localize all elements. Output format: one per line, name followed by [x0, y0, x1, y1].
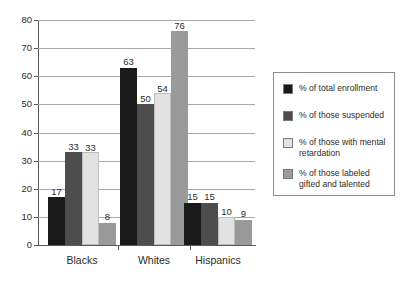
legend-item[interactable]: % of total enrollment — [283, 83, 377, 94]
x-axis-category-label: Blacks — [67, 255, 98, 266]
bar-value-label: 15 — [187, 192, 198, 202]
legend-item[interactable]: % of those with mental retardation — [283, 137, 391, 159]
bars-layer: 1733338635054761515109 — [38, 20, 255, 245]
bar: 10 — [218, 217, 235, 245]
y-axis-tick-label: 60 — [21, 72, 32, 82]
bar-value-label: 9 — [241, 209, 246, 219]
legend-swatch-icon — [283, 84, 293, 94]
bar-value-label: 33 — [68, 142, 79, 152]
bar: 50 — [137, 104, 154, 245]
y-axis-tick-label: 10 — [21, 212, 32, 222]
legend-item-label: % of total enrollment — [299, 83, 377, 94]
bar-value-label: 50 — [140, 94, 151, 104]
legend-item[interactable]: % of those suspended — [283, 110, 384, 121]
bar: 33 — [82, 152, 99, 245]
legend-item-label: % of those with mental retardation — [299, 137, 391, 159]
x-axis-line — [38, 245, 256, 246]
bar-group: 1733338 — [48, 20, 116, 245]
y-tick-mark — [34, 245, 38, 246]
legend-item[interactable]: % of those labeled gifted and talented — [283, 168, 391, 190]
legend: % of total enrollment% of those suspende… — [273, 72, 395, 196]
legend-item-label: % of those suspended — [299, 110, 384, 121]
x-axis-separator — [118, 245, 119, 250]
bar-value-label: 17 — [51, 187, 62, 197]
bar-chart: 01020304050607080 1733338635054761515109… — [0, 0, 416, 282]
bar-group: 1515109 — [184, 20, 252, 245]
bar-value-label: 15 — [204, 192, 215, 202]
bar-value-label: 10 — [221, 207, 232, 217]
bar: 33 — [65, 152, 82, 245]
bar: 9 — [235, 220, 252, 245]
y-axis-tick-label: 50 — [21, 100, 32, 110]
y-axis-tick-label: 70 — [21, 43, 32, 53]
bar: 17 — [48, 197, 65, 245]
legend-swatch-icon — [283, 169, 293, 179]
legend-item-label: % of those labeled gifted and talented — [299, 168, 391, 190]
plot-area: 01020304050607080 1733338635054761515109 — [38, 20, 255, 245]
y-axis-tick-label: 20 — [21, 184, 32, 194]
y-axis-tick-label: 0 — [27, 240, 32, 250]
x-axis-separator — [190, 245, 191, 250]
x-axis-category-label: Hispanics — [195, 255, 241, 266]
bar-group: 63505476 — [120, 20, 188, 245]
bar: 63 — [120, 68, 137, 245]
bar-value-label: 8 — [105, 212, 110, 222]
y-axis-tick-label: 30 — [21, 156, 32, 166]
bar-value-label: 33 — [85, 143, 96, 153]
bar: 8 — [99, 223, 116, 246]
bar-value-label: 63 — [123, 57, 134, 67]
y-axis-tick-label: 80 — [21, 15, 32, 25]
bar: 15 — [184, 203, 201, 245]
legend-swatch-icon — [283, 138, 293, 148]
bar: 15 — [201, 203, 218, 245]
bar: 54 — [154, 93, 171, 245]
bar-value-label: 54 — [157, 84, 168, 94]
legend-swatch-icon — [283, 111, 293, 121]
y-axis-tick-label: 40 — [21, 128, 32, 138]
x-axis-category-label: Whites — [138, 255, 170, 266]
